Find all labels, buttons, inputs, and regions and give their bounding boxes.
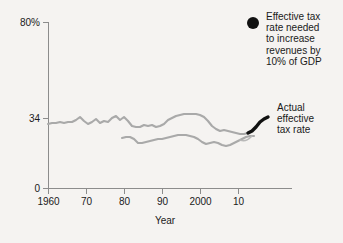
x-tick-label-1980: 80: [108, 196, 141, 207]
annotation-line-2: effective: [277, 113, 314, 124]
annotation-actual-rate-label: Actual effective tax rate: [277, 102, 314, 136]
legend-line-1: Effective tax: [266, 11, 322, 22]
y-tick-label-0: 0: [0, 183, 40, 194]
legend-marker-filled-circle-icon: [247, 17, 259, 29]
y-tick-label-80: 80%: [0, 17, 40, 28]
x-axis-title: Year: [125, 215, 205, 226]
x-tick-label-1960: 1960: [28, 196, 69, 207]
x-tick-label-2000: 2000: [180, 196, 221, 207]
x-tick-label-1990: 90: [146, 196, 179, 207]
legend-needed-rate-label: Effective tax rate needed to increase re…: [266, 11, 322, 67]
annotation-line-3: tax rate: [277, 124, 314, 135]
annotation-line-1: Actual: [277, 102, 314, 113]
x-tick-label-1970: 70: [70, 196, 103, 207]
x-tick-label-2010: 10: [222, 196, 255, 207]
legend-line-3: to increase: [266, 33, 322, 44]
chart-figure: 80% 34 0 1960 70 80 90 2000 10 Year Effe…: [0, 0, 343, 243]
y-tick-label-34: 34: [0, 113, 40, 124]
series-actual-effective-tax-rate: [48, 114, 248, 134]
series-actual-highlight-segment: [248, 117, 268, 133]
legend-line-5: 10% of GDP: [266, 56, 322, 67]
series-actual-lower-band: [122, 135, 254, 146]
legend-line-4: revenues by: [266, 45, 322, 56]
legend-line-2: rate needed: [266, 22, 322, 33]
